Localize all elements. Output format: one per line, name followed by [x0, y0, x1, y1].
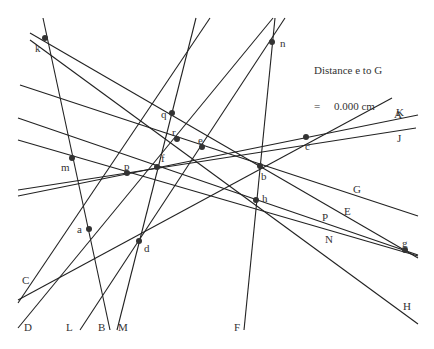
line-label-k: K — [396, 106, 404, 118]
distance-readout-label: Distance e to G — [314, 64, 382, 76]
point-f[interactable] — [154, 164, 160, 170]
distance-readout-value: = 0.000 cm — [314, 100, 382, 112]
point-label-d: d — [144, 242, 150, 254]
line-b[interactable] — [43, 18, 110, 330]
point-k[interactable] — [42, 35, 48, 41]
line-label-h: H — [403, 300, 411, 312]
line-f[interactable] — [244, 18, 275, 330]
point-d[interactable] — [136, 238, 142, 244]
point-label-p: p — [124, 160, 130, 172]
line-label-p: P — [322, 211, 328, 223]
point-h[interactable] — [253, 197, 259, 203]
line-label-g: G — [353, 183, 361, 195]
point-label-k: k — [35, 42, 41, 54]
point-label-a: a — [77, 223, 82, 235]
point-label-g: g — [402, 237, 408, 249]
line-n[interactable] — [18, 140, 418, 256]
point-label-h: h — [262, 192, 268, 204]
point-label-q: q — [161, 108, 167, 120]
point-b[interactable] — [257, 163, 263, 169]
line-label-m: M — [118, 321, 128, 333]
line-label-d: D — [24, 321, 32, 333]
point-label-n: n — [280, 37, 286, 49]
line-label-n: N — [325, 233, 333, 245]
point-label-m: m — [61, 161, 70, 173]
point-label-c: c — [305, 140, 310, 152]
line-label-f: F — [234, 321, 240, 333]
point-a[interactable] — [86, 226, 92, 232]
line-label-l: L — [66, 321, 73, 333]
line-label-j: J — [397, 132, 402, 144]
line-d[interactable] — [18, 18, 273, 328]
point-m[interactable] — [69, 155, 75, 161]
line-a[interactable] — [18, 98, 392, 300]
point-label-f: f — [161, 152, 165, 164]
distance-readout: Distance e to G = 0.000 cm — [314, 40, 382, 124]
point-label-e: e — [198, 134, 203, 146]
line-label-c: C — [22, 274, 29, 286]
line-c[interactable] — [18, 18, 210, 303]
line-label-e: E — [344, 205, 351, 217]
point-label-r: r — [172, 126, 176, 138]
point-label-b: b — [261, 170, 267, 182]
line-label-b: B — [98, 321, 105, 333]
point-n[interactable] — [269, 39, 275, 45]
point-q[interactable] — [169, 110, 175, 116]
